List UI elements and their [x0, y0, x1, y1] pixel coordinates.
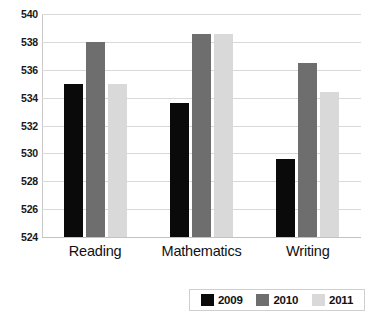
y-axis-tick-labels: 540538536534532530528526524: [0, 14, 38, 237]
legend-item-2011[interactable]: 2011: [312, 294, 353, 306]
bar-writing-2010: [298, 63, 317, 237]
y-tick-label-530: 530: [4, 147, 38, 159]
y-tick-label-536: 536: [4, 64, 38, 76]
bar-reading-2009: [64, 84, 83, 237]
y-tick-label-534: 534: [4, 92, 38, 104]
legend-item-2010[interactable]: 2010: [256, 294, 298, 306]
bar-writing-2009: [276, 159, 295, 237]
bar-reading-2010: [86, 42, 105, 237]
legend-item-2009[interactable]: 2009: [201, 294, 243, 306]
bar-writing-2011: [320, 92, 339, 237]
x-axis-label-writing: Writing: [286, 243, 329, 259]
x-axis-label-reading: Reading: [69, 243, 122, 259]
legend-swatch-2010: [256, 294, 269, 306]
legend-label-2011: 2011: [329, 294, 353, 306]
y-tick-label-526: 526: [4, 203, 38, 215]
x-axis-category-labels: ReadingMathematicsWriting: [42, 243, 361, 267]
bar-mathematics-2010: [192, 34, 211, 237]
y-tick-label-532: 532: [4, 120, 38, 132]
legend-swatch-2011: [312, 294, 325, 306]
legend-swatch-2009: [201, 294, 214, 306]
legend-label-2010: 2010: [273, 294, 298, 306]
gridline-540: [42, 14, 361, 15]
y-tick-label-524: 524: [4, 231, 38, 243]
chart-legend: 200920102011: [189, 289, 365, 311]
x-axis-label-mathematics: Mathematics: [162, 243, 242, 259]
legend-label-2009: 2009: [218, 294, 243, 306]
plot-area: [42, 14, 361, 237]
bar-mathematics-2011: [214, 34, 233, 237]
y-tick-label-538: 538: [4, 36, 38, 48]
bar-chart: 540538536534532530528526524 ReadingMathe…: [0, 0, 373, 314]
bar-reading-2011: [108, 84, 127, 237]
y-tick-label-528: 528: [4, 175, 38, 187]
bar-mathematics-2009: [170, 103, 189, 237]
gridline-524: [42, 237, 361, 238]
y-tick-label-540: 540: [4, 8, 38, 20]
